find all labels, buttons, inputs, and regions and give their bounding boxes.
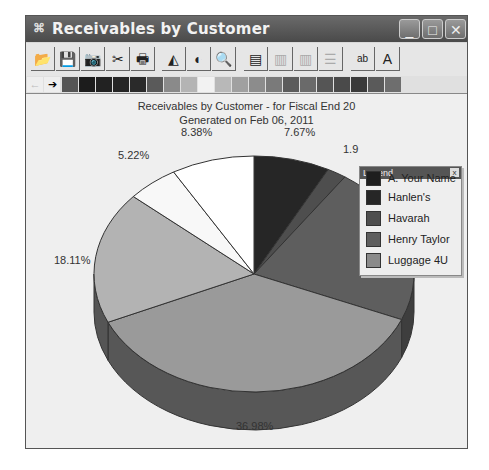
- data-editor-icon[interactable]: ▥: [269, 47, 293, 71]
- data-grid-icon[interactable]: ▤: [244, 47, 268, 71]
- window-title: Receivables by Customer: [52, 20, 270, 38]
- palette-swatch[interactable]: [181, 77, 197, 92]
- 3d-view-icon[interactable]: ◭: [162, 47, 186, 71]
- rotate-icon[interactable]: ◐: [187, 47, 211, 71]
- app-icon: ⌘: [31, 20, 47, 36]
- legend-label: Henry Taylor: [388, 233, 450, 245]
- slice-label: 1.9: [343, 143, 358, 155]
- legend-swatch: [366, 253, 381, 268]
- slice-label: 7.67%: [284, 126, 315, 138]
- legend-label: Luggage 4U: [388, 254, 448, 266]
- legend-swatch: [366, 211, 381, 226]
- legend-label: Hanlen's: [388, 191, 430, 203]
- maximize-button[interactable]: □: [422, 19, 443, 39]
- palette-swatch[interactable]: [334, 77, 350, 92]
- palette-swatch[interactable]: [266, 77, 282, 92]
- save-icon[interactable]: 💾: [56, 47, 80, 71]
- legend-label: A. Your Name: [388, 172, 456, 184]
- font-icon[interactable]: A: [376, 47, 400, 71]
- palette-swatch[interactable]: [368, 77, 384, 92]
- palette-prev-icon[interactable]: ←: [27, 77, 43, 92]
- chart-window: ⌘ Receivables by Customer _ □ ✕ 📂 💾 📷 ✂ …: [25, 15, 468, 449]
- palette-swatch[interactable]: [130, 77, 146, 92]
- palette-swatch[interactable]: [147, 77, 163, 92]
- legend-swatch: [366, 171, 381, 186]
- minimize-button[interactable]: _: [399, 19, 420, 39]
- palette-swatch[interactable]: [198, 77, 214, 92]
- slice-label: 36.98%: [236, 420, 273, 432]
- palette-swatch[interactable]: [249, 77, 265, 92]
- horizontal-grid-icon[interactable]: ☰: [319, 47, 343, 71]
- color-palette-bar: ← ➔: [26, 76, 467, 93]
- legend-swatch: [366, 232, 381, 247]
- palette-swatch[interactable]: [300, 77, 316, 92]
- print-preview-icon[interactable]: 🔍: [212, 47, 236, 71]
- palette-swatch[interactable]: [164, 77, 180, 92]
- palette-swatch[interactable]: [215, 77, 231, 92]
- legend-panel[interactable]: Legend x A. Your Name Hanlen's Havarah H…: [359, 166, 462, 276]
- close-button[interactable]: ✕: [445, 19, 466, 39]
- palette-swatch[interactable]: [283, 77, 299, 92]
- palette-swatch[interactable]: [351, 77, 367, 92]
- title-bar[interactable]: ⌘ Receivables by Customer _ □ ✕: [26, 16, 467, 42]
- palette-next-icon[interactable]: ➔: [44, 77, 60, 92]
- palette-swatch[interactable]: [96, 77, 112, 92]
- cut-icon[interactable]: ✂: [106, 47, 130, 71]
- palette-swatch[interactable]: [79, 77, 95, 92]
- open-icon[interactable]: 📂: [31, 47, 55, 71]
- slice-label: 5.22%: [118, 149, 149, 161]
- palette-swatch[interactable]: [232, 77, 248, 92]
- legend-label: Havarah: [388, 212, 430, 224]
- chart-area: Receivables by Customer - for Fiscal End…: [26, 93, 467, 448]
- slice-label: 8.38%: [181, 126, 212, 138]
- palette-swatch[interactable]: [113, 77, 129, 92]
- vertical-grid-icon[interactable]: ▥: [294, 47, 318, 71]
- palette-swatch[interactable]: [62, 77, 78, 92]
- point-labels-icon[interactable]: ab: [351, 47, 375, 71]
- palette-swatch[interactable]: [317, 77, 333, 92]
- slice-label: 18.11%: [26, 254, 91, 266]
- legend-swatch: [366, 190, 381, 205]
- toolbar: 📂 💾 📷 ✂ 🖶 ◭ ◐ 🔍 ▤ ▥ ▥ ☰ ab A: [26, 43, 467, 76]
- print-icon[interactable]: 🖶: [131, 47, 155, 71]
- camera-icon[interactable]: 📷: [81, 47, 105, 71]
- palette-swatch[interactable]: [385, 77, 401, 92]
